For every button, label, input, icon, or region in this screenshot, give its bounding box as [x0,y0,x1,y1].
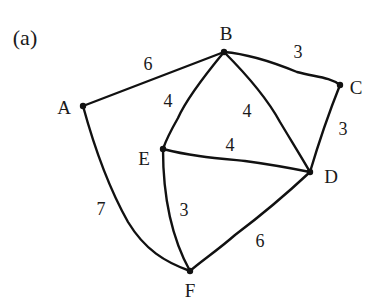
node-a-dot [80,103,86,109]
node-b-dot [221,49,227,55]
edge-d-f [190,172,310,271]
weight-a-b: 6 [144,55,153,73]
node-e-dot [160,146,166,152]
node-label-f: F [185,281,196,298]
weighted-graph-diagram: (a) A B C D E F 6 3 3 4 4 4 3 7 6 [0,0,372,298]
node-label-b: B [220,24,233,43]
weight-b-e: 4 [164,92,173,110]
edge-e-d [163,149,310,172]
panel-label: (a) [13,27,37,49]
weight-b-d: 4 [243,102,252,120]
weight-b-c: 3 [294,43,303,61]
edge-b-d [224,52,310,172]
weight-c-d: 3 [339,120,348,138]
weight-d-f: 6 [256,232,265,250]
node-c-dot [337,82,343,88]
edge-c-d [310,85,340,172]
graph-edges-layer [0,0,372,298]
weight-a-f: 7 [97,200,106,218]
node-label-c: C [350,78,363,97]
node-label-e: E [138,149,150,168]
weight-e-d: 4 [226,136,235,154]
weight-e-f: 3 [180,201,189,219]
edge-a-f [83,106,190,271]
node-label-d: D [324,167,338,186]
node-f-dot [187,268,193,274]
node-label-a: A [57,98,71,117]
node-d-dot [307,169,313,175]
